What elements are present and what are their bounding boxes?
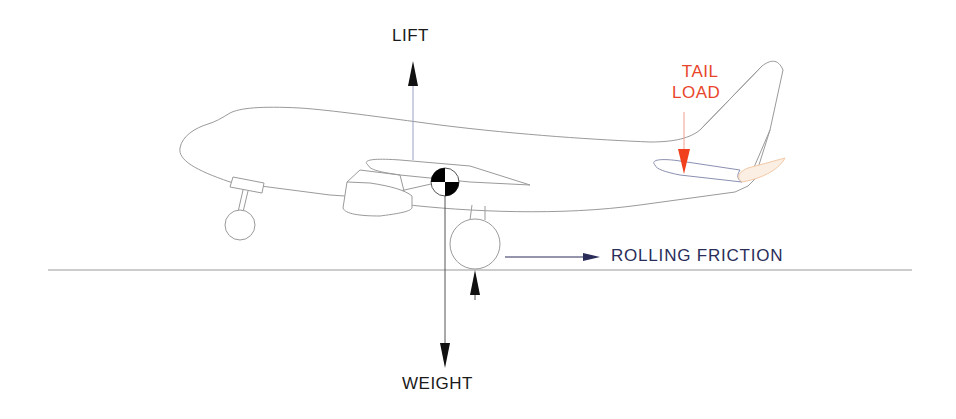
engine <box>343 182 412 216</box>
nose-gear <box>225 177 264 240</box>
tail-load-arrow <box>678 112 690 174</box>
tail-load-label-line1: TAIL <box>672 61 720 82</box>
elevator <box>739 158 785 182</box>
ground-reaction-arrow <box>470 270 480 300</box>
main-gear <box>450 205 500 269</box>
tail-load-label: TAIL LOAD <box>672 61 720 103</box>
aircraft-diagram <box>0 0 956 419</box>
weight-label: WEIGHT <box>402 374 473 394</box>
lift-label: LIFT <box>392 26 429 46</box>
lift-arrow <box>408 61 418 160</box>
rolling-friction-label: ROLLING FRICTION <box>611 246 783 266</box>
horizontal-stabilizer <box>654 160 742 182</box>
center-of-gravity-icon <box>431 168 459 196</box>
rolling-friction-arrow <box>505 253 600 261</box>
weight-arrow <box>440 183 450 368</box>
tail-load-label-line2: LOAD <box>672 82 720 103</box>
